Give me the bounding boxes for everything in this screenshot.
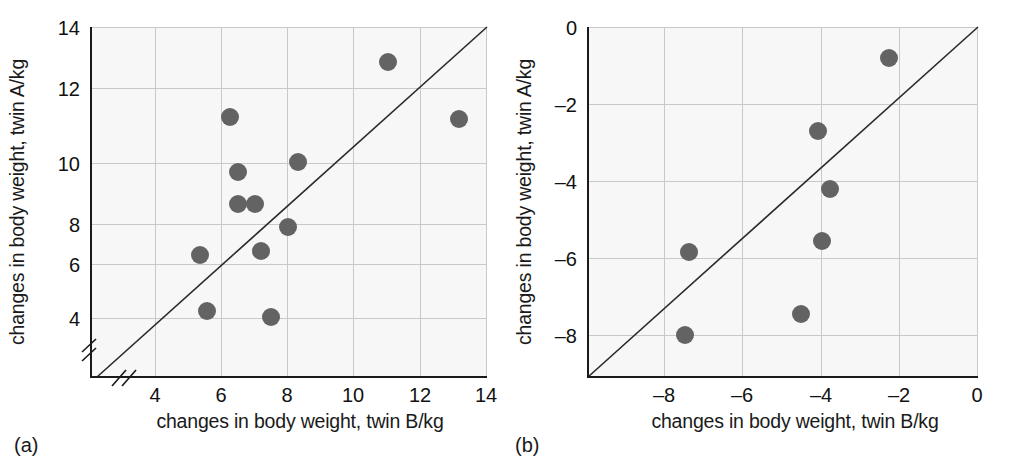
x-axis-label-b: changes in body weight, twin B/kg [651,410,938,432]
data-point [450,110,468,128]
y-tick-label: 8 [69,214,80,236]
data-point [229,163,247,181]
data-point [262,308,280,326]
x-tick-label: 14 [475,384,497,406]
x-tick-label: 6 [215,384,226,406]
panel-a-plot: 14 12 10 8 6 4 4 6 8 10 12 14 [0,0,507,463]
x-tick-label: 8 [281,384,292,406]
data-point [880,49,898,67]
data-point [813,232,831,250]
y-tick-label: 14 [58,17,80,39]
y-tick-label: 4 [69,308,80,330]
data-point [229,195,247,213]
y-tick-labels-a: 14 12 10 8 6 4 [58,17,80,330]
data-point [676,326,694,344]
x-tick-label: 4 [149,384,160,406]
x-tick-labels-b: –8 –6 –4 –2 0 [653,384,983,406]
x-tick-label: –6 [731,384,753,406]
x-tick-label: 12 [409,384,431,406]
x-tick-label: –8 [653,384,675,406]
data-point [289,153,307,171]
twin-weight-scatter-figure: 14 12 10 8 6 4 4 6 8 10 12 14 [0,0,1015,463]
x-tick-label: 10 [342,384,364,406]
data-point [252,242,270,260]
data-point [379,53,397,71]
x-axis-label-a: changes in body weight, twin B/kg [156,410,443,432]
y-tick-label: 6 [69,254,80,276]
y-tick-label: –8 [555,325,577,347]
data-point [279,218,297,236]
data-point [246,195,264,213]
data-point [191,246,209,264]
y-tick-label: –6 [555,248,577,270]
y-tick-label: 10 [58,153,80,175]
data-point [680,243,698,261]
panel-tag-a: (a) [14,434,38,456]
panel-b: 0 –2 –4 –6 –8 –8 –6 –4 –2 0 [507,0,1014,463]
panel-tag-b: (b) [515,434,539,456]
x-tick-label: –2 [888,384,910,406]
data-point [198,302,216,320]
x-tick-label: –4 [810,384,832,406]
data-point [792,305,810,323]
y-axis-label-b: changes in body weight, twin A/kg [513,59,535,345]
y-tick-label: 12 [58,78,80,100]
panel-a: 14 12 10 8 6 4 4 6 8 10 12 14 [0,0,507,463]
data-point [809,122,827,140]
y-tick-label: 0 [566,17,577,39]
x-tick-labels-a: 4 6 8 10 12 14 [149,384,497,406]
x-tick-label: 0 [971,384,982,406]
y-axis-label-a: changes in body weight, twin A/kg [6,59,28,345]
y-tick-labels-b: 0 –2 –4 –6 –8 [555,17,577,347]
y-tick-label: –2 [555,94,577,116]
data-point [221,108,239,126]
data-point [821,180,839,198]
panel-b-plot: 0 –2 –4 –6 –8 –8 –6 –4 –2 0 [507,0,1015,463]
y-tick-label: –4 [555,171,577,193]
